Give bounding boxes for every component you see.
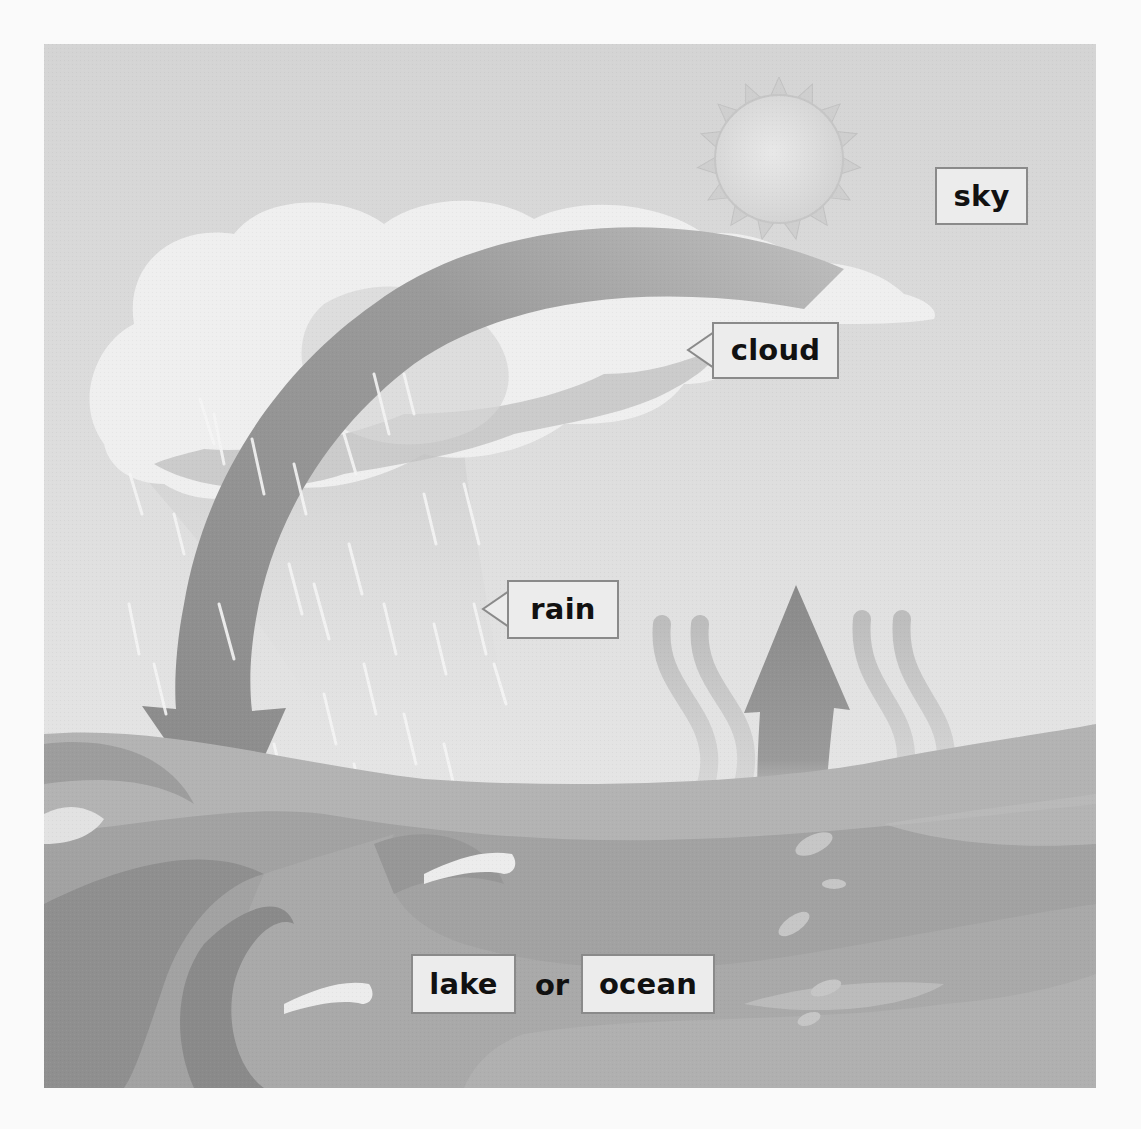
- label-lake: lake: [411, 954, 516, 1014]
- water-cycle-illustration: sky cloud rain lake or ocean: [44, 44, 1096, 1088]
- label-cloud: cloud: [712, 322, 839, 379]
- label-rain: rain: [507, 580, 619, 639]
- label-or: or: [527, 967, 577, 1003]
- label-sky: sky: [935, 167, 1028, 225]
- page: { "diagram": { "title": "Water cycle ill…: [0, 0, 1141, 1129]
- rain-label-pointer: [481, 589, 509, 629]
- label-ocean: ocean: [581, 954, 715, 1014]
- cloud-label-pointer: [686, 330, 714, 370]
